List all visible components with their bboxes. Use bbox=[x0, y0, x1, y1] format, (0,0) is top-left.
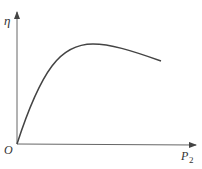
origin-label: O bbox=[4, 143, 13, 157]
efficiency-chart: η O P 2 bbox=[0, 0, 202, 169]
x-axis bbox=[17, 144, 196, 145]
x-axis-label-subscript: 2 bbox=[189, 155, 194, 165]
efficiency-curve bbox=[17, 44, 161, 144]
x-axis-label: P bbox=[180, 149, 189, 163]
y-axis-label: η bbox=[4, 13, 10, 28]
